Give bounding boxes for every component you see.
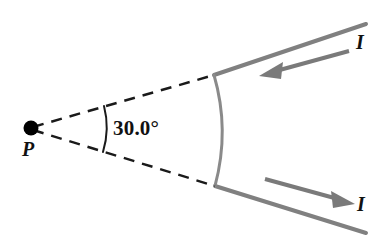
current-arrow-lower bbox=[265, 179, 355, 208]
label-current-top: I bbox=[356, 32, 364, 52]
label-point-p: P bbox=[22, 139, 34, 159]
figure-canvas bbox=[0, 0, 391, 249]
wire-arc-segment bbox=[214, 75, 222, 186]
wire-lower bbox=[215, 186, 366, 233]
label-angle-value: 30.0° bbox=[113, 118, 159, 139]
angle-arc-indicator bbox=[103, 106, 107, 152]
point-p-marker bbox=[24, 121, 39, 136]
label-current-bottom: I bbox=[357, 194, 365, 214]
physics-figure-arc-current: P 30.0° I I bbox=[0, 0, 391, 249]
